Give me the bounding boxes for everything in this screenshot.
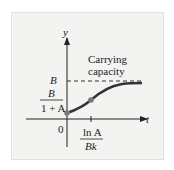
asymptote-label: B bbox=[50, 75, 57, 86]
y-axis-label: y bbox=[63, 27, 68, 38]
inflection-denominator: Bk bbox=[85, 141, 97, 152]
x-axis-label: t bbox=[146, 114, 149, 125]
inflection-point bbox=[88, 97, 94, 103]
inflection-numerator: ln A bbox=[83, 127, 102, 138]
y-intercept-denominator: 1 + A bbox=[41, 103, 66, 114]
origin-label: 0 bbox=[58, 124, 64, 135]
carrying-label-line2: capacity bbox=[88, 66, 125, 77]
carrying-label-line1: Carrying bbox=[88, 54, 127, 65]
logistic-curve bbox=[67, 83, 142, 113]
y-intercept-numerator: B bbox=[48, 88, 55, 99]
